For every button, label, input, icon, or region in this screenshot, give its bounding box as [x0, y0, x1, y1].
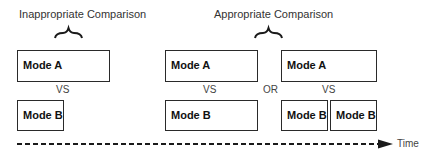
- left-mode-b-label: Mode B: [23, 109, 63, 121]
- middle-vs-label: VS: [203, 84, 216, 95]
- middle-brace-icon: [255, 28, 282, 38]
- right-mode-b-box-1: Mode B: [281, 100, 328, 131]
- right-mode-b-label-2: Mode B: [336, 109, 376, 121]
- middle-mode-a-label: Mode A: [171, 59, 210, 71]
- timeline-arrowhead-icon: [378, 140, 393, 149]
- left-brace-icon: [55, 28, 82, 38]
- or-label: OR: [263, 84, 278, 95]
- right-vs-label: VS: [322, 84, 335, 95]
- middle-mode-b-box: Mode B: [165, 100, 258, 131]
- middle-mode-b-label: Mode B: [171, 109, 211, 121]
- right-mode-a-box: Mode A: [281, 50, 377, 82]
- left-vs-label: VS: [56, 84, 69, 95]
- inappropriate-comparison-heading: Inappropriate Comparison: [19, 8, 146, 20]
- left-mode-a-box: Mode A: [17, 50, 110, 82]
- time-axis-label: Time: [397, 138, 419, 149]
- right-mode-a-label: Mode A: [287, 59, 326, 71]
- left-mode-b-box: Mode B: [17, 100, 64, 131]
- appropriate-comparison-heading: Appropriate Comparison: [214, 8, 333, 20]
- middle-mode-a-box: Mode A: [165, 50, 258, 82]
- left-mode-a-label: Mode A: [23, 59, 62, 71]
- right-mode-b-label-1: Mode B: [287, 109, 327, 121]
- right-mode-b-box-2: Mode B: [330, 100, 377, 131]
